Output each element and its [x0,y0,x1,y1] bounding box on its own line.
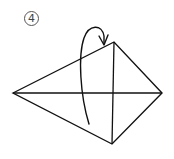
fold-arrow-curve [81,27,104,124]
origami-diagram: 4 [0,0,174,159]
step-number-badge: 4 [24,11,39,26]
